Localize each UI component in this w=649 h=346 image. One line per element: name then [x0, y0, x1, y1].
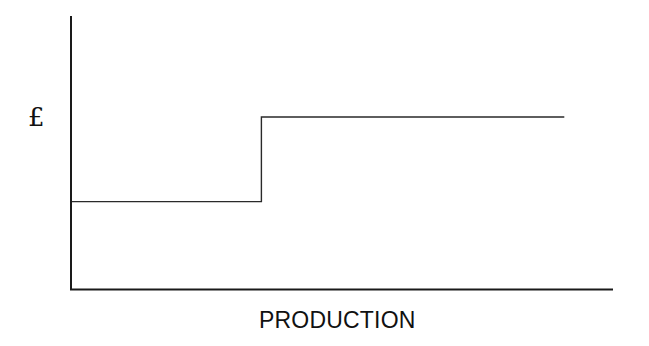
step-chart	[0, 0, 649, 346]
x-axis-label: PRODUCTION	[259, 309, 416, 332]
y-axis-label: £	[28, 104, 45, 130]
stepped-cost-line	[72, 117, 564, 202]
